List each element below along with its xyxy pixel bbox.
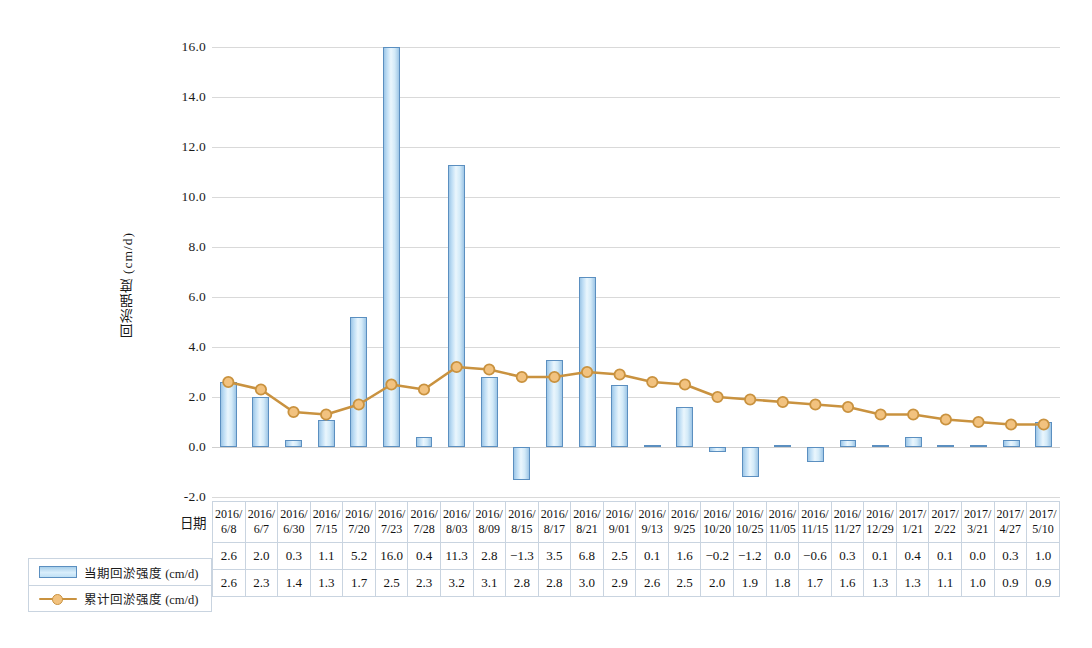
line-marker: [549, 372, 559, 382]
date-cell: 2017/5/10: [1027, 502, 1060, 543]
value-cell: 2.3: [245, 570, 278, 597]
date-cell: 2016/7/20: [343, 502, 376, 543]
value-cell: 1.0: [1027, 543, 1060, 570]
date-cell: 2016/6/30: [278, 502, 311, 543]
value-cell: 1.6: [831, 570, 864, 597]
date-cell: 2016/10/20: [701, 502, 734, 543]
line-marker: [386, 379, 396, 389]
value-cell: 0.0: [961, 543, 994, 570]
value-cell: 0.3: [831, 543, 864, 570]
chart-figure: 回淤强度 (cm/d) 16.014.012.010.08.06.04.02.0…: [0, 0, 1092, 648]
value-cell: 1.0: [961, 570, 994, 597]
date-cell: 2016/9/01: [603, 502, 636, 543]
value-cell: 2.9: [603, 570, 636, 597]
line-marker: [614, 369, 624, 379]
line-marker: [223, 377, 233, 387]
y-tick-label: 2.0: [189, 389, 206, 405]
y-tick-label: 6.0: [189, 289, 206, 305]
value-cell: 6.8: [571, 543, 604, 570]
date-cell: 2016/11/05: [766, 502, 799, 543]
value-cell: 0.1: [636, 543, 669, 570]
date-cell: 2016/7/15: [310, 502, 343, 543]
value-cell: 1.7: [343, 570, 376, 597]
y-tick-label: 10.0: [182, 189, 206, 205]
value-cell: 3.5: [538, 543, 571, 570]
legend-label-current: 当期回淤强度 (cm/d): [84, 563, 198, 582]
value-cell: 0.4: [408, 543, 441, 570]
chart-legend: 当期回淤强度 (cm/d) 累计回淤强度 (cm/d): [28, 558, 212, 612]
value-cell: 1.3: [310, 570, 343, 597]
date-cell: 2017/1/21: [896, 502, 929, 543]
value-cell: 2.5: [603, 543, 636, 570]
line-marker: [288, 407, 298, 417]
line-marker: [451, 362, 461, 372]
value-cell: 5.2: [343, 543, 376, 570]
date-cell: 2016/10/25: [734, 502, 767, 543]
y-tick-label: 12.0: [182, 139, 206, 155]
line-marker-icon: [39, 593, 77, 605]
cumulative-line: [228, 367, 1043, 425]
legend-label-cumulative: 累计回淤强度 (cm/d): [84, 589, 198, 608]
value-cell: 3.0: [571, 570, 604, 597]
y-tick-label: 16.0: [182, 39, 206, 55]
line-marker: [745, 394, 755, 404]
y-tick-label: 8.0: [189, 239, 206, 255]
data-table-wrap: 2016/6/82016/6/72016/6/302016/7/152016/7…: [212, 501, 1060, 597]
date-cell: 2016/9/13: [636, 502, 669, 543]
value-cell: 2.6: [636, 570, 669, 597]
line-marker: [354, 399, 364, 409]
line-marker: [712, 392, 722, 402]
value-cell: 0.9: [1027, 570, 1060, 597]
line-marker: [941, 414, 951, 424]
value-cell: 0.1: [864, 543, 897, 570]
line-marker: [810, 399, 820, 409]
value-cell: 2.8: [473, 543, 506, 570]
date-cell: 2016/9/25: [668, 502, 701, 543]
value-cell: 1.3: [864, 570, 897, 597]
value-cell: 0.3: [994, 543, 1027, 570]
value-cell: 1.4: [278, 570, 311, 597]
line-marker: [419, 384, 429, 394]
line-marker: [647, 377, 657, 387]
date-cell: 2016/11/27: [831, 502, 864, 543]
line-marker: [973, 417, 983, 427]
y-axis-tick-labels: 16.014.012.010.08.06.04.02.00.0-2.0: [150, 47, 206, 497]
line-marker: [875, 409, 885, 419]
value-cell: 1.3: [896, 570, 929, 597]
date-cell: 2016/8/09: [473, 502, 506, 543]
table-row-current: 2.62.00.31.15.216.00.411.32.8−1.33.56.82…: [213, 543, 1060, 570]
date-cell: 2016/6/7: [245, 502, 278, 543]
y-tick-label: 4.0: [189, 339, 206, 355]
value-cell: 2.6: [213, 543, 246, 570]
value-cell: 0.9: [994, 570, 1027, 597]
plot-area: [212, 47, 1060, 497]
line-marker: [1038, 419, 1048, 429]
y-tick-label: -2.0: [184, 489, 206, 505]
value-cell: 1.1: [929, 570, 962, 597]
date-cell: 2016/7/28: [408, 502, 441, 543]
y-tick-label: 14.0: [182, 89, 206, 105]
data-table-body: 2016/6/82016/6/72016/6/302016/7/152016/7…: [213, 502, 1060, 597]
value-cell: 16.0: [375, 543, 408, 570]
date-row-label: 日期: [150, 512, 206, 532]
line-marker: [908, 409, 918, 419]
line-marker: [321, 409, 331, 419]
date-cell: 2016/7/23: [375, 502, 408, 543]
value-cell: 0.0: [766, 543, 799, 570]
data-table: 2016/6/82016/6/72016/6/302016/7/152016/7…: [212, 501, 1060, 597]
value-cell: 3.2: [440, 570, 473, 597]
value-cell: −0.6: [799, 543, 832, 570]
value-cell: 1.7: [799, 570, 832, 597]
line-marker: [778, 397, 788, 407]
date-cell: 2017/4/27: [994, 502, 1027, 543]
value-cell: 1.9: [734, 570, 767, 597]
value-cell: 1.6: [668, 543, 701, 570]
date-cell: 2017/2/22: [929, 502, 962, 543]
gridline: [212, 497, 1060, 498]
line-marker: [582, 367, 592, 377]
line-marker: [256, 384, 266, 394]
value-cell: 2.6: [213, 570, 246, 597]
value-cell: −1.3: [506, 543, 539, 570]
date-cell: 2016/8/21: [571, 502, 604, 543]
y-axis-title: 回淤强度 (cm/d): [118, 232, 138, 338]
